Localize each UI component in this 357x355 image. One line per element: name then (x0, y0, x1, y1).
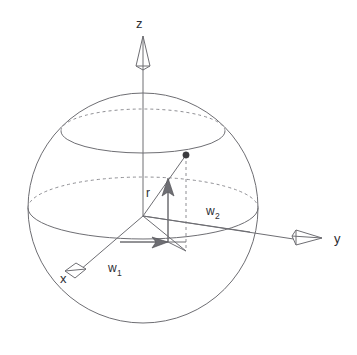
w1-vector-label-base: w (107, 261, 117, 275)
x-axis-label: x (60, 271, 67, 286)
w2-vector-label: w 2 (205, 204, 220, 221)
z-axis-label: z (136, 16, 143, 31)
r-vector-label: r (146, 186, 150, 200)
w1-vector-label: w 1 (107, 261, 122, 278)
w1-vector-label-subscript: 1 (117, 268, 122, 278)
cone-arrow-up-icon (136, 36, 150, 70)
sphere-diagram-canvas: z y x r w 1 w 2 (0, 0, 357, 355)
y-axis-label: y (334, 231, 341, 246)
w2-vector-label-subscript: 2 (215, 211, 220, 221)
w2-vector-label-base: w (205, 204, 215, 218)
cone-arrow-right-icon (292, 230, 322, 245)
filled-dot-icon (183, 152, 189, 158)
cone-arrow-foreshortened-icon (65, 263, 86, 278)
sphere-diagram-figure: z y x r w 1 w 2 (0, 0, 357, 355)
